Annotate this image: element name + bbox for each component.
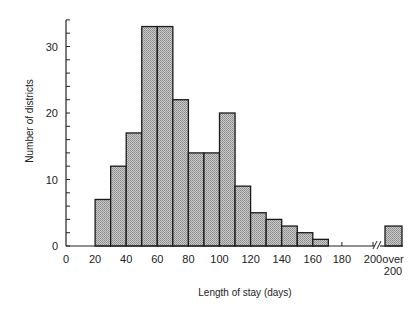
histogram-bar-60-70 (157, 27, 173, 246)
x-tick-label: 120 (241, 253, 259, 265)
y-axis-title: Number of districts (24, 79, 35, 162)
histogram-chart: 0102030 020406080100120140160180200over2… (0, 0, 419, 311)
x-tick-label: 80 (182, 253, 194, 265)
x-tick-label: 180 (333, 253, 351, 265)
histogram-bar-100-110 (220, 113, 236, 246)
histogram-bar-20-30 (95, 199, 111, 246)
histogram-bar-70-80 (173, 100, 189, 246)
histogram-bar-120-130 (251, 213, 267, 246)
histogram-bar-160-170 (313, 239, 329, 246)
histogram-bar-150-160 (297, 233, 313, 246)
y-axis: 0102030 (46, 20, 70, 252)
y-tick-label: 20 (46, 107, 58, 119)
y-tick-label: 0 (52, 240, 58, 252)
histogram-bar-80-90 (188, 153, 204, 246)
histogram-bar-90-100 (204, 153, 220, 246)
x-axis: 020406080100120140160180200over200 (63, 241, 404, 277)
x-axis-title: Length of stay (days) (198, 287, 291, 298)
histogram-bar-40-50 (126, 133, 142, 246)
y-tick-label: 10 (46, 174, 58, 186)
x-tick-label: 160 (304, 253, 322, 265)
histogram-bar-140-150 (282, 226, 298, 246)
x-tick-label-over: over (382, 253, 404, 265)
y-tick-label: 30 (46, 41, 58, 53)
x-tick-label: 140 (273, 253, 291, 265)
x-tick-label: 200 (364, 253, 382, 265)
histogram-bar-110-120 (235, 186, 251, 246)
histogram-bar-130-140 (266, 219, 282, 246)
x-tick-label: 0 (63, 253, 69, 265)
x-tick-label: 20 (89, 253, 101, 265)
histogram-bar-50-60 (142, 27, 158, 246)
x-tick-label: 60 (151, 253, 163, 265)
histogram-bars (95, 27, 402, 246)
x-tick-label-200: 200 (384, 265, 402, 277)
x-tick-label: 100 (210, 253, 228, 265)
x-tick-label: 40 (120, 253, 132, 265)
histogram-bar-30-40 (111, 166, 127, 246)
histogram-bar-over-200 (385, 226, 402, 246)
